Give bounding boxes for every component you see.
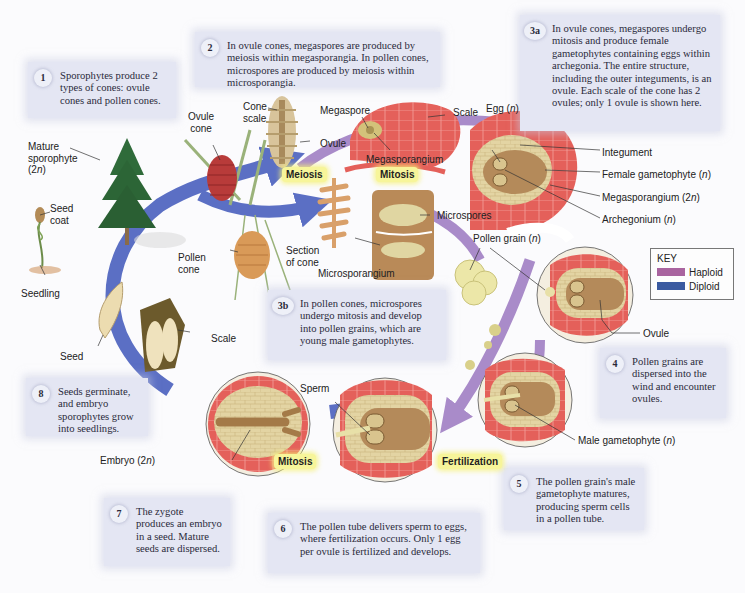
haploid-swatch (657, 268, 685, 276)
label-section-of-cone: Section of cone (286, 245, 319, 268)
male-gametophyte-circle (478, 353, 572, 447)
step-number: 6 (274, 520, 292, 538)
diploid-swatch (657, 282, 685, 290)
step-text: Sporophytes produce 2 types of cones: ov… (60, 70, 161, 106)
label-mature-sporophyte: Mature sporophyte (2n) (28, 141, 77, 176)
label-microspores: Microspores (437, 210, 491, 222)
ovule-pollination-circle (537, 247, 633, 343)
winged-seed-scale (140, 298, 185, 372)
microsporangium (372, 190, 434, 280)
step-number: 7 (110, 505, 128, 523)
step-number: 3b (272, 297, 294, 315)
step-number: 4 (606, 355, 624, 373)
label-ovule-cone: Ovule cone (188, 111, 214, 134)
step-2-box: 2 In ovule cones, megaspores are produce… (195, 32, 440, 87)
step-text: In ovule cones, megaspores are produced … (227, 40, 429, 88)
step-number: 3a (524, 22, 546, 40)
step-text: In pollen cones, microspores undergo mit… (300, 298, 422, 346)
step-number: 2 (201, 39, 219, 57)
pollen-cone (234, 215, 290, 300)
legend-key: KEY Haploid Diploid (650, 248, 734, 300)
label-archegonium: Archegonium (n) (602, 214, 676, 226)
step-7-box: 7 The zygote produces an embryo in a see… (104, 498, 230, 566)
process-meiosis: Meiosis (282, 167, 327, 182)
pine-life-cycle-diagram: 1 Sporophytes produce 2 types of cones: … (0, 0, 745, 593)
fertilization-circle (333, 378, 437, 482)
step-6-box: 6 The pollen tube delivers sperm to eggs… (268, 513, 480, 573)
label-seed-coat: Seed coat (50, 203, 73, 226)
step-3a-box: 3a In ovule cones, megaspores undergo mi… (520, 15, 720, 131)
legend-title: KEY (657, 253, 727, 264)
label-scale-top: Scale (453, 107, 478, 119)
label-megasporangium: Megasporangium (366, 154, 443, 166)
label-megasporangium-2n: Megasporangium (2n) (602, 192, 700, 204)
cone-scale-section (266, 96, 298, 168)
step-3b-box: 3b In pollen cones, microspores undergo … (268, 290, 446, 360)
legend-item-haploid: Haploid (657, 266, 727, 278)
label-pollen-cone: Pollen cone (178, 252, 206, 275)
label-scale-bottom: Scale (211, 333, 236, 345)
step-text: Pollen grains are dispersed into the win… (632, 356, 716, 404)
label-seed: Seed (60, 351, 83, 363)
label-male-gametophyte: Male gametophyte (n) (578, 435, 675, 447)
step-text: In ovule cones, megaspores undergo mitos… (552, 23, 711, 108)
label-megaspore: Megaspore (320, 105, 370, 117)
step-number: 8 (32, 385, 50, 403)
step-4-box: 4 Pollen grains are dispersed into the w… (600, 348, 726, 418)
process-mitosis-top: Mitosis (376, 167, 418, 182)
step-number: 5 (510, 475, 528, 493)
step-text: The zygote produces an embryo in a seed.… (136, 506, 222, 554)
step-text: Seeds germinate, and embryo sporophytes … (58, 386, 134, 434)
label-microsporangium: Microsporangium (318, 268, 395, 280)
step-5-box: 5 The pollen grain's male gametophyte ma… (504, 468, 644, 530)
step-number: 1 (34, 69, 52, 87)
label-egg: Egg (n) (486, 103, 519, 115)
step-8-box: 8 Seeds germinate, and embryo sporophyte… (26, 378, 148, 436)
label-female-gametophyte: Female gametophyte (n) (602, 169, 711, 181)
label-sperm: Sperm (300, 383, 329, 395)
legend-item-diploid: Diploid (657, 280, 727, 292)
label-seedling: Seedling (21, 288, 60, 300)
step-1-box: 1 Sporophytes produce 2 types of cones: … (28, 62, 176, 118)
process-mitosis-bottom: Mitosis (274, 454, 316, 469)
label-embryo: Embryo (2n) (100, 455, 155, 467)
label-ovule: Ovule (320, 138, 346, 150)
step-text: The pollen grain's male gametophyte matu… (536, 476, 635, 524)
process-fertilization: Fertilization (438, 454, 502, 469)
step-text: The pollen tube delivers sperm to eggs, … (300, 521, 467, 557)
label-integument: Integument (602, 147, 652, 159)
label-cone-scale: Cone scale (243, 101, 267, 124)
pollen-cone-section (320, 178, 348, 248)
label-pollen-grain: Pollen grain (n) (473, 233, 541, 245)
label-ovule-right: Ovule (643, 328, 669, 340)
